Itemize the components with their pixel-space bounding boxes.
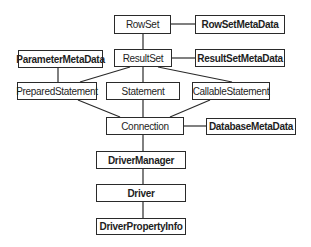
node-label: DatabaseMetaData [209,121,293,132]
node-label: ResultSet [123,53,164,64]
node-label: ParameterMetaData [16,54,104,65]
node-label: DriverPropertyInfo [100,221,183,232]
node-drivermanager: DriverManager [96,151,186,169]
node-label: Statement [122,86,165,97]
node-resultset: ResultSet [114,49,172,67]
node-label: RowSet [126,19,159,30]
node-label: DriverManager [108,155,174,166]
edge-resultset-preparedstatement [80,67,130,82]
node-parametermetadata: ParameterMetaData [18,50,103,68]
node-driverpropertyinfo: DriverPropertyInfo [96,218,186,235]
node-label: PreparedStatement [16,86,98,97]
edge-preparedstatement-connection [78,100,120,117]
node-label: ResultSetMetaData [197,53,282,64]
node-driver: Driver [96,184,186,202]
node-label: RowSetMetaData [202,19,279,30]
node-label: Connection [121,121,169,132]
node-connection: Connection [106,117,184,135]
node-statement: Statement [106,82,180,100]
node-callablestatement: CallableStatement [192,82,270,100]
node-rowsetmetadata: RowSetMetaData [195,15,285,34]
node-rowset: RowSet [114,15,171,34]
node-resultsetmetadata: ResultSetMetaData [195,49,285,67]
node-databasemetadata: DatabaseMetaData [206,118,296,135]
node-label: Driver [127,188,154,199]
node-preparedstatement: PreparedStatement [17,82,97,100]
node-label: CallableStatement [193,86,270,97]
edge-resultset-callablestatement [158,67,232,82]
edge-callablestatement-connection [170,100,210,117]
